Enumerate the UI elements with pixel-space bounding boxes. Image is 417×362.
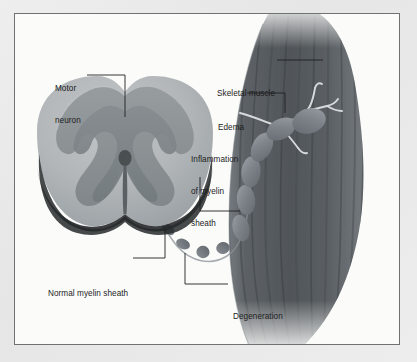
label-motor-neuron: Motor neuron [55,63,81,148]
label-motor-neuron-line2: neuron [55,116,81,127]
illustration-plate: Motor neuron Skeletal muscle Edema Infla… [14,13,400,345]
label-degeneration-line2: of myelin [233,344,283,345]
label-inflammation-line1: Inflammation [191,155,238,166]
label-inflammation-line2: of myelin [191,187,238,198]
label-degeneration-line1: Degeneration [233,312,283,323]
label-skeletal-muscle-line1: Skeletal muscle [217,89,275,100]
label-inflammation-line3: sheath [191,219,238,230]
label-motor-neuron-line1: Motor [55,84,81,95]
figure-container: Motor neuron Skeletal muscle Edema Infla… [0,0,417,362]
label-normal-myelin-sheath: Normal myelin sheath [48,268,128,321]
label-normal-myelin-line1: Normal myelin sheath [48,289,128,300]
label-degeneration-of-myelin-sheath: Degeneration of myelin sheath [233,291,283,345]
label-inflammation-of-myelin-sheath: Inflammation of myelin sheath [191,134,238,251]
label-edema-line1: Edema [218,123,244,134]
